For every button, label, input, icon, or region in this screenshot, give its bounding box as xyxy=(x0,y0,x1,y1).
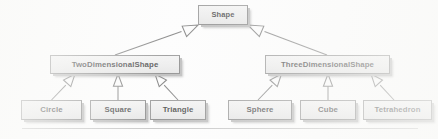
class-name-square: Square xyxy=(104,106,131,114)
class-box-sphere[interactable]: Sphere xyxy=(228,100,292,120)
class-name-circle: Circle xyxy=(40,106,62,114)
class-name-threedimensionalshape: ThreeDimensionalShape xyxy=(281,60,374,68)
edge-circle-to-twodimensionalshape xyxy=(52,74,76,100)
class-name-twodimensionalshape: TwoDimensionalShape xyxy=(72,60,159,68)
class-box-cube[interactable]: Cube xyxy=(300,100,356,120)
class-name-tetrahedron: Tetrahedron xyxy=(374,106,420,114)
class-box-circle[interactable]: Circle xyxy=(21,100,82,120)
uml-class-diagram: Shape TwoDimensionalShape ThreeDimension… xyxy=(0,0,438,139)
class-box-tetrahedron[interactable]: Tetrahedron xyxy=(363,100,432,120)
edge-square-to-twodimensionalshape xyxy=(113,74,122,100)
edge-triangle-to-twodimensionalshape xyxy=(155,74,178,100)
class-box-triangle[interactable]: Triangle xyxy=(150,100,206,120)
class-box-threedimensionalshape[interactable]: ThreeDimensionalShape xyxy=(265,55,390,74)
class-box-shape[interactable]: Shape xyxy=(198,5,248,25)
edge-sphere-to-threedimensionalshape xyxy=(258,74,282,100)
class-name-shape: Shape xyxy=(211,11,234,19)
class-box-twodimensionalshape[interactable]: TwoDimensionalShape xyxy=(50,55,180,74)
edge-cube-to-threedimensionalshape xyxy=(323,74,332,100)
class-name-triangle: Triangle xyxy=(163,106,194,114)
footer-divider xyxy=(22,128,418,129)
edge-threedimensionalshape-to-shape xyxy=(248,25,327,55)
class-name-sphere: Sphere xyxy=(246,106,273,114)
edge-tetrahedron-to-threedimensionalshape xyxy=(371,74,394,100)
class-box-square[interactable]: Square xyxy=(90,100,146,120)
edge-twodimensionalshape-to-shape xyxy=(115,25,198,55)
class-name-cube: Cube xyxy=(318,106,338,114)
